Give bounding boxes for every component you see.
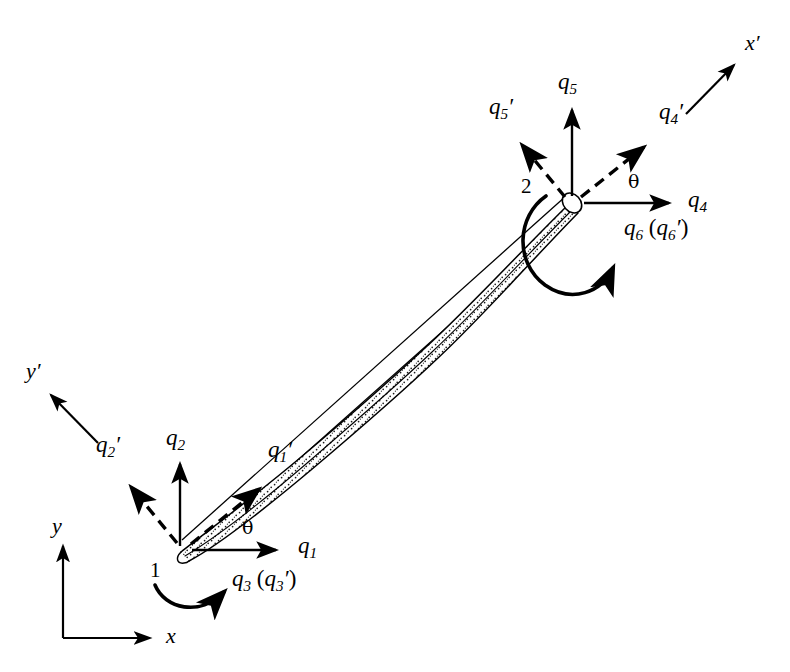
global-y-axis-label: y (52, 515, 62, 537)
q6-label: q6 (q6′) (624, 216, 688, 242)
q5-label: q5 (558, 70, 577, 96)
local-x-prime-axis (686, 65, 734, 114)
local-y-prime-axis-label: y′ (26, 360, 41, 382)
global-axes (63, 546, 150, 638)
node-2-label: 2 (521, 176, 532, 197)
theta-node-1-label: θ (242, 518, 253, 537)
q1-prime-label: q1′ (268, 438, 292, 464)
undeformed-element (182, 196, 578, 556)
theta-node-2-label: θ (628, 172, 639, 191)
q3-label: q3 (q3′) (232, 567, 296, 593)
q2-label: q2 (166, 426, 185, 452)
y-prime-mark: ′ (36, 358, 41, 383)
q3-rotation-arc (155, 585, 224, 607)
q5-prime-label: q5′ (489, 95, 513, 121)
x-prime-mark: ′ (755, 30, 760, 55)
node-1-label: 1 (150, 560, 161, 581)
deformed-beam-body (181, 205, 578, 561)
q4-prime-label: q4′ (659, 100, 683, 126)
global-x-axis-label: x (166, 625, 176, 647)
q1-label: q1 (298, 534, 317, 560)
q4-label: q4 (688, 188, 707, 214)
q2-prime-arrow (131, 487, 177, 543)
local-y-prime-axis (51, 395, 98, 443)
local-x-prime-axis-label: x′ (745, 32, 760, 54)
figure-root: x y x′ y′ 1 2 θ θ q1 q2 q3 (q3′) q1′ q2′… (0, 0, 790, 672)
q2-prime-label: q2′ (96, 433, 120, 459)
node-2-dof-arrows (522, 110, 669, 294)
